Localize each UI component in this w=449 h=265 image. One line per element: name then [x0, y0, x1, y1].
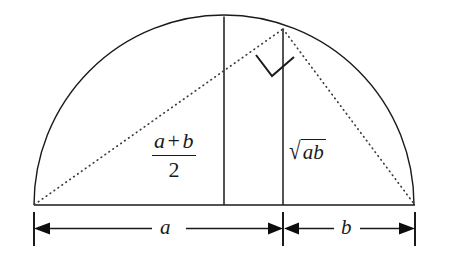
- dotted-chord-left: [35, 29, 284, 205]
- right-angle-marker: [256, 55, 294, 76]
- arrowhead-b-right: [399, 223, 415, 235]
- arrowhead-a-right: [268, 223, 283, 235]
- dotted-chord-right: [283, 29, 415, 205]
- semicircle-diagram-svg: [0, 0, 449, 265]
- arrowhead-b-left: [284, 223, 299, 235]
- arrowhead-a-left: [34, 223, 50, 235]
- geometry-figure: a+b 2 √ ab a b: [0, 0, 449, 265]
